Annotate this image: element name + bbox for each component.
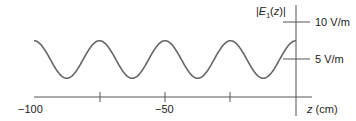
- x-axis-title: z (cm): [307, 104, 338, 115]
- y-tick-label-5: 5 V/m: [315, 54, 344, 65]
- chart-plot-area: [0, 0, 356, 121]
- standing-wave-curve: [34, 41, 296, 78]
- y-tick-label-10: 10 V/m: [315, 17, 350, 28]
- y-title-bar-right: |: [283, 5, 286, 17]
- y-title-paren: (z): [270, 5, 283, 17]
- y-axis-title: |E1(z)|: [256, 6, 286, 19]
- x-tick-label-neg50: −50: [155, 104, 174, 115]
- x-tick-label-neg100: −100: [18, 104, 43, 115]
- y-title-z: z: [274, 5, 280, 17]
- x-title-unit: (cm): [313, 103, 338, 115]
